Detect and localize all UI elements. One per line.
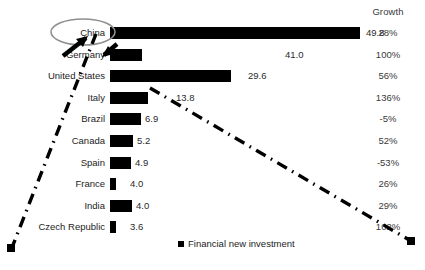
category-label: Czech Republic: [0, 216, 105, 238]
chart-row: Czech Republic3.6102%: [0, 216, 425, 238]
bar-value-label: 6.9: [145, 108, 158, 130]
category-label: Germany: [0, 44, 105, 66]
bar-value-label: 3.6: [130, 216, 143, 238]
bar-value-label: 13.8: [176, 87, 195, 109]
bar-value-label: 4.9: [135, 152, 148, 174]
value-bar: [110, 70, 231, 82]
growth-value: 52%: [359, 130, 417, 152]
bar-value-label: 4.0: [136, 195, 149, 217]
category-label: China: [0, 22, 105, 44]
growth-value: 29%: [359, 195, 417, 217]
value-bar: [110, 200, 132, 212]
value-bar: [110, 221, 116, 233]
left-trend-end-marker: [7, 244, 15, 252]
category-label: Spain: [0, 152, 105, 174]
chart-row: United States29.656%: [0, 65, 425, 87]
value-bar: [110, 92, 148, 104]
growth-value: -53%: [359, 152, 417, 174]
legend-marker-icon: [178, 241, 184, 247]
category-label: United States: [0, 65, 105, 87]
growth-value: 102%: [359, 216, 417, 238]
chart-row: Germany41.0100%: [0, 44, 425, 66]
chart-row: Canada5.252%: [0, 130, 425, 152]
value-bar: [110, 157, 131, 169]
chart-row: China49.828%: [0, 22, 425, 44]
chart-legend: Financial new investment: [178, 238, 295, 249]
category-label: Brazil: [0, 108, 105, 130]
growth-value: 26%: [359, 173, 417, 195]
category-label: India: [0, 195, 105, 217]
bar-value-label: 41.0: [285, 44, 304, 66]
growth-value: 136%: [359, 87, 417, 109]
growth-column-header: Growth: [359, 6, 417, 17]
chart-row: Brazil6.9-5%: [0, 108, 425, 130]
chart-row: India4.029%: [0, 195, 425, 217]
value-bar: [110, 135, 133, 147]
growth-value: 28%: [359, 22, 417, 44]
value-bar: [110, 49, 142, 61]
growth-value: 56%: [359, 65, 417, 87]
chart-row: Italy13.8136%: [0, 87, 425, 109]
chart-row: France4.026%: [0, 173, 425, 195]
category-label: France: [0, 173, 105, 195]
category-label: Italy: [0, 87, 105, 109]
bar-chart: Growth China49.828%Germany41.0100%United…: [0, 0, 425, 270]
value-bar: [110, 178, 116, 190]
value-bar: [110, 113, 141, 125]
value-bar: [110, 27, 360, 39]
legend-label: Financial new investment: [188, 238, 295, 249]
category-label: Canada: [0, 130, 105, 152]
bar-value-label: 5.2: [137, 130, 150, 152]
bar-value-label: 29.6: [248, 65, 267, 87]
growth-value: -5%: [359, 108, 417, 130]
growth-value: 100%: [359, 44, 417, 66]
bar-value-label: 4.0: [130, 173, 143, 195]
chart-row: Spain4.9-53%: [0, 152, 425, 174]
